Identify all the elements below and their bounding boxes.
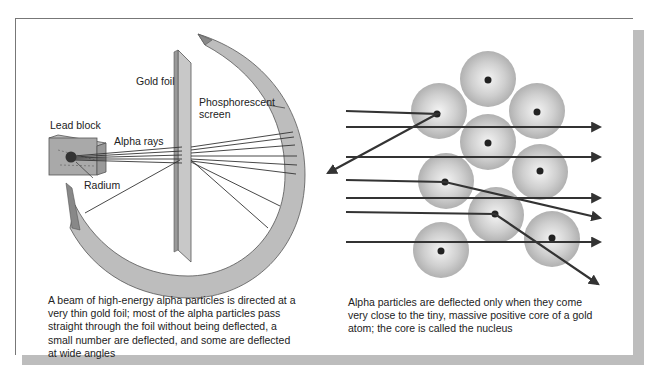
right-atom-figure: [328, 51, 600, 284]
gold-atoms: [411, 51, 580, 278]
left-caption: A beam of high-energy alpha particles is…: [48, 294, 298, 360]
label-phosphorescent-screen-1: Phosphorescent: [199, 96, 275, 108]
label-gold-foil: Gold foil: [136, 75, 175, 87]
gold-foil: [174, 50, 191, 262]
lead-block: [49, 135, 106, 175]
left-experiment-figure: [49, 34, 305, 298]
label-alpha-rays: Alpha rays: [114, 135, 164, 147]
label-radium: Radium: [84, 179, 120, 191]
label-phosphorescent-screen-2: screen: [199, 108, 231, 120]
label-lead-block: Lead block: [50, 119, 101, 131]
right-caption: Alpha particles are deflected only when …: [348, 296, 598, 336]
